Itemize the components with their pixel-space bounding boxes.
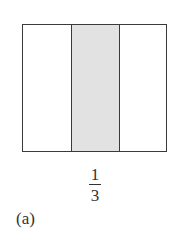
rectangle-part-3-unshaded bbox=[120, 25, 166, 151]
fraction-bar bbox=[89, 184, 101, 185]
fraction-rectangle bbox=[22, 24, 167, 152]
rectangle-part-2-shaded bbox=[71, 25, 120, 151]
fraction-numerator: 1 bbox=[85, 166, 105, 184]
fraction-label: 1 3 bbox=[85, 166, 105, 205]
fraction-denominator: 3 bbox=[85, 187, 105, 205]
figure-caption: (a) bbox=[16, 209, 35, 229]
rectangle-part-1-unshaded bbox=[23, 25, 71, 151]
